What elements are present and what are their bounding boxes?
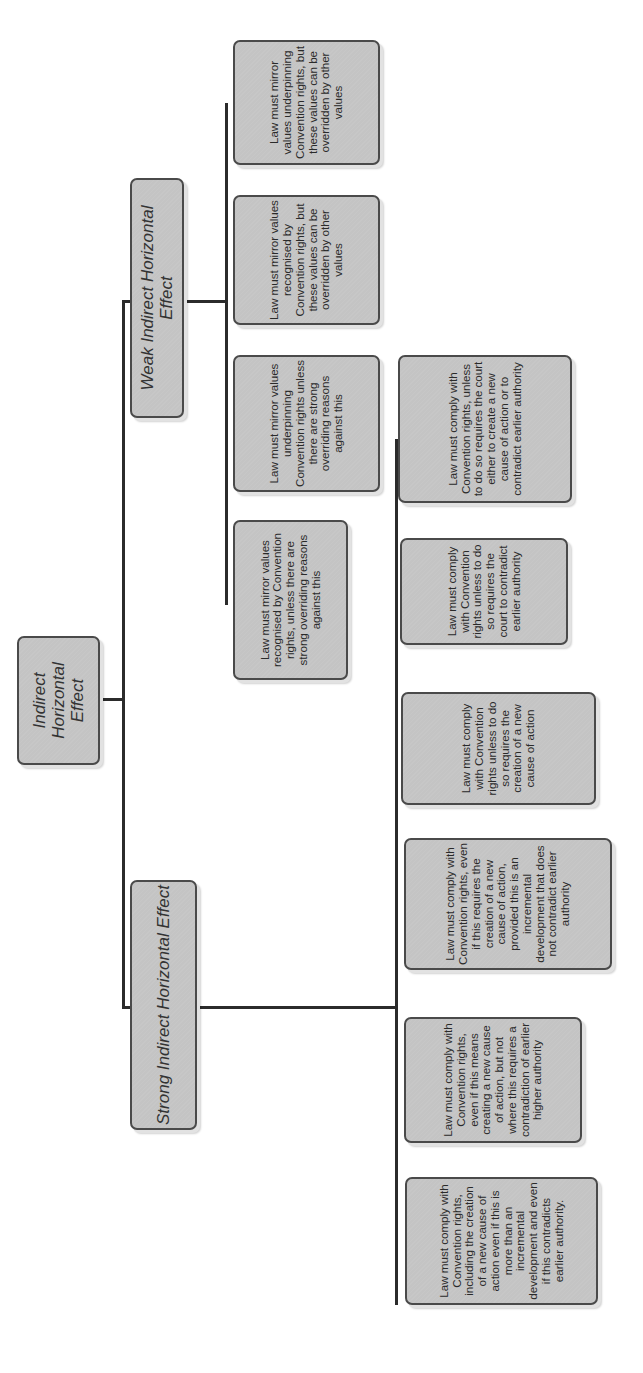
weak-leaf-text: Law must mirror values underpinning Conv… xyxy=(268,360,345,487)
strong-leaf-text: Law must comply with Convention rights u… xyxy=(446,543,523,640)
weak-leaf-1: Law must mirror values recognised by Con… xyxy=(233,520,348,680)
root-label: Indirect Horizontal Effect xyxy=(30,641,87,760)
weak-bar xyxy=(225,103,228,605)
weak-leaf-2: Law must mirror values underpinning Conv… xyxy=(233,355,380,492)
strong-leaf-6: Law must comply with Convention rights, … xyxy=(398,355,572,503)
strong-bar xyxy=(395,439,398,1305)
weak-leaf-text: Law must mirror values underpinning Conv… xyxy=(268,45,345,160)
weak-leaf-4: Law must mirror values underpinning Conv… xyxy=(233,40,380,165)
strong-leaf-text: Law must comply with Convention rights, … xyxy=(444,843,572,965)
strong-leaf-5: Law must comply with Convention rights u… xyxy=(400,538,568,645)
weak-branch-label: Weak Indirect Horizontal Effect xyxy=(138,183,176,413)
weak-branch-node: Weak Indirect Horizontal Effect xyxy=(130,178,184,418)
strong-branch-node: Strong Indirect Horizontal Effect xyxy=(130,880,197,1130)
strong-leaf-3: Law must comply with Convention rights, … xyxy=(404,838,612,970)
strong-leaf-4: Law must comply with Convention rights u… xyxy=(401,692,596,805)
strong-branch-label: Strong Indirect Horizontal Effect xyxy=(154,885,173,1125)
org-chart-rotated: Indirect Horizontal Effect Strong Indire… xyxy=(0,0,643,1373)
root-connector xyxy=(100,698,124,701)
trunk-line xyxy=(122,300,125,1008)
strong-leaf-text: Law must comply with Convention rights, … xyxy=(447,360,524,498)
strong-leaf-text: Law must comply with Convention rights, … xyxy=(442,1022,544,1138)
strong-leaf-text: Law must comply with Convention rights, … xyxy=(438,1182,566,1300)
strong-leaf-1: Law must comply with Convention rights, … xyxy=(405,1177,598,1305)
root-node: Indirect Horizontal Effect xyxy=(17,636,100,765)
strong-leaf-text: Law must comply with Convention rights u… xyxy=(460,697,537,800)
weak-leaf-text: Law must mirror values recognised by Con… xyxy=(259,525,323,675)
strong-leaf-2: Law must comply with Convention rights, … xyxy=(404,1017,582,1143)
weak-leaf-3: Law must mirror values recognised by Con… xyxy=(233,195,380,325)
weak-leaf-text: Law must mirror values recognised by Con… xyxy=(268,200,345,320)
